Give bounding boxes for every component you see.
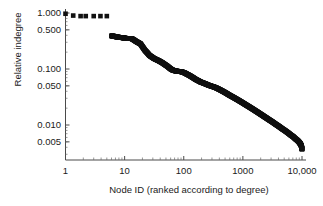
y-tick-label: 1.000 (21, 8, 61, 18)
y-tick-label: 0.100 (21, 64, 61, 74)
x-axis-title: Node ID (ranked according to degree) (60, 184, 318, 195)
x-tick-label: 10 (119, 166, 130, 176)
y-tick-label: 0.050 (21, 81, 61, 91)
x-tick-label: 1000 (232, 166, 253, 176)
x-tick-label: 1 (63, 166, 68, 176)
y-tick-label: 0.500 (21, 25, 61, 35)
y-axis-title: Relative indegree (12, 0, 23, 110)
y-tick-label: 0.010 (21, 120, 61, 130)
data-series-relative-indegree (63, 11, 304, 151)
x-tick-label: 100 (176, 166, 192, 176)
data-series-interpolated-tail (109, 34, 304, 152)
x-tick-label: 10,000 (287, 166, 316, 176)
chart-figure: 1.0000.5000.1000.0500.0100.005 Relative … (0, 0, 323, 206)
y-axis-tick-labels: 1.0000.5000.1000.0500.0100.005 (20, 0, 61, 206)
y-tick-label: 0.005 (21, 137, 61, 147)
